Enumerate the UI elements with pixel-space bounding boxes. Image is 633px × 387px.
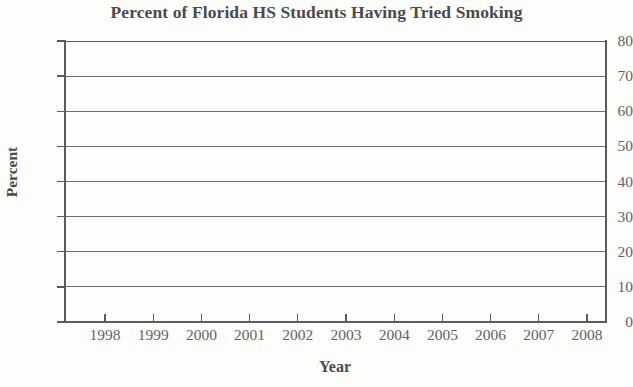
y-axis-tick-80: [57, 40, 64, 41]
y-axis-tick-label-40: 40: [589, 174, 633, 190]
y-axis-tick-label-80: 80: [589, 33, 633, 49]
y-axis-title: Percent: [3, 127, 21, 217]
chart-title: Percent of Florida HS Students Having Tr…: [0, 2, 633, 23]
y-axis-tick-label-70: 70: [589, 68, 633, 84]
y-axis-tick-60: [57, 111, 64, 112]
gridline-40: [64, 181, 606, 182]
gridline-60: [64, 111, 606, 112]
gridline-50: [64, 146, 606, 147]
y-axis-tick-0: [57, 321, 64, 322]
x-axis-tick-label-2008: 2008: [557, 327, 617, 343]
y-axis-tick-label-60: 60: [589, 103, 633, 119]
y-axis-tick-50: [57, 146, 64, 147]
y-axis-tick-70: [57, 75, 64, 76]
y-axis-tick-label-50: 50: [589, 138, 633, 154]
y-axis-tick-label-20: 20: [589, 244, 633, 260]
gridline-30: [64, 216, 606, 217]
gridline-20: [64, 251, 606, 252]
y-axis-tick-20: [57, 251, 64, 252]
y-axis-tick-30: [57, 216, 64, 217]
y-axis-tick-label-10: 10: [589, 279, 633, 295]
gridline-10: [64, 286, 606, 287]
y-axis-tick-label-30: 30: [589, 209, 633, 225]
x-axis-title: Year: [64, 358, 606, 376]
gridline-70: [64, 76, 606, 77]
gridline-80: [64, 41, 606, 42]
y-axis-tick-10: [57, 286, 64, 287]
chart-figure: Percent of Florida HS Students Having Tr…: [0, 0, 633, 387]
plot-right-border: [605, 40, 607, 323]
x-axis-spine: [64, 321, 607, 323]
y-axis-spine: [64, 40, 66, 323]
y-axis-tick-40: [57, 181, 64, 182]
